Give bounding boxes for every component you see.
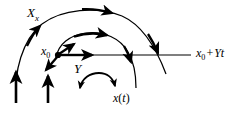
label-trajectory: x(t) — [113, 92, 130, 104]
label-vector-Y: Y — [74, 62, 81, 75]
label-trajectory-parens: ( — [118, 91, 122, 105]
middle-flow-arc — [56, 33, 136, 88]
outer-arc-right-arrowhead — [148, 34, 158, 53]
label-outer-flow-subscript: x — [35, 13, 39, 23]
inner-arc-double-arrow — [80, 73, 115, 88]
point-marker-x0 — [55, 52, 61, 58]
middle-arc-apex-arrowhead — [74, 34, 107, 37]
vectors-at-x0 — [46, 44, 92, 70]
outer-arc-left-arrowhead — [27, 26, 40, 46]
label-initial-point: x0 — [41, 45, 50, 61]
label-horizontal-line: x0+Yt — [196, 47, 224, 63]
label-plus-operator: + — [205, 46, 214, 60]
label-outer-flow: Xx — [27, 6, 39, 22]
middle-arc-right-arrowhead — [124, 46, 131, 62]
vertical-up-arrows — [16, 72, 48, 103]
figure-canvas: Xx x0 Y x0+Yt x(t) — [0, 0, 245, 113]
middle-arc-apex — [86, 33, 128, 52]
label-initial-point-subscript: 0 — [46, 51, 50, 60]
inner-small-arc — [80, 73, 115, 88]
outer-arc-right-branch — [122, 16, 166, 74]
outer-arc-left-branch — [16, 24, 42, 100]
